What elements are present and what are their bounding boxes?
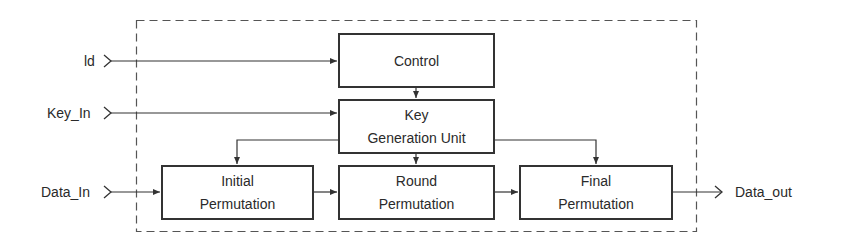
block-initial-line2: Permutation [200,195,275,213]
input-port-data-in-icon [104,186,111,198]
wire-keygen-initial [237,140,338,164]
block-keygen-line2: Generation Unit [367,129,465,147]
input-label-data-in: Data_In [41,184,90,200]
wire-keygen-final [494,140,596,164]
output-label-data-out: Data_out [735,184,792,200]
block-keygen-line1: Key [404,106,428,124]
block-control-label: Control [394,52,439,70]
block-initial-permutation: Initial Permutation [161,165,314,220]
block-control: Control [338,33,495,88]
input-label-key-in: Key_In [47,105,91,121]
block-final-permutation: Final Permutation [519,165,673,220]
block-final-line1: Final [581,172,611,190]
block-key-generation-unit: Key Generation Unit [338,99,495,154]
block-round-permutation: Round Permutation [338,165,495,220]
input-label-ld: ld [84,53,95,69]
block-round-line1: Round [396,172,437,190]
block-round-line2: Permutation [379,195,454,213]
block-initial-line1: Initial [221,172,254,190]
block-final-line2: Permutation [558,195,633,213]
input-port-ld-icon [104,55,111,67]
input-port-key-in-icon [104,107,111,119]
